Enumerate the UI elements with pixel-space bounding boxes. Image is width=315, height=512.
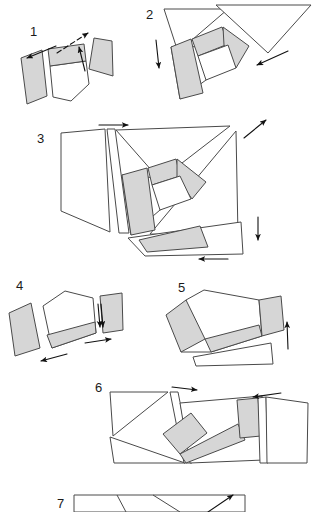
panel-7-label: 7 [57,496,64,511]
panel-2-label: 2 [146,7,153,22]
panel-6-label: 6 [95,380,102,395]
panel-4-label: 4 [16,278,23,293]
panel-1-label: 1 [30,24,37,39]
piece-outer-rect-partial [74,495,245,512]
piece-right-white-quad [266,397,308,463]
piece-shaded-right-block [237,398,261,438]
panel-5-label: 5 [178,280,185,295]
piece-right-wedge [89,38,113,76]
piece-right-shaded-quad [259,296,284,336]
panel-7: 7 [57,495,245,512]
diagram-canvas: 1 2 3 [0,0,315,512]
assembly-sequence-diagram: 1 2 3 [0,0,315,512]
panel-3-label: 3 [37,131,44,146]
